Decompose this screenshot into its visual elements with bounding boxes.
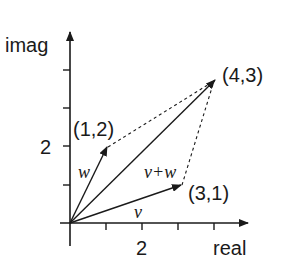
point-label-w: (1,2) [73,118,114,140]
vector-v-label: v [134,202,142,222]
vector-v-arrow [70,185,181,223]
y-tick-label: 2 [40,136,51,158]
x-ticks [106,223,214,230]
vector-sum-label: v+w [144,162,176,182]
vector-w-label: w [78,162,90,182]
complex-plane-diagram: 2 2 real imag w v v+w (1,2) (3,1) (4,3) [0,0,281,274]
x-tick-label: 2 [136,237,147,259]
dashed-line-w-to-sum [108,81,214,147]
y-axis-label: imag [5,34,48,56]
y-ticks [63,70,70,185]
point-label-v: (3,1) [188,182,229,204]
point-label-sum: (4,3) [222,64,263,86]
axes: 2 2 real imag [5,32,248,259]
x-axis-label: real [213,237,246,259]
